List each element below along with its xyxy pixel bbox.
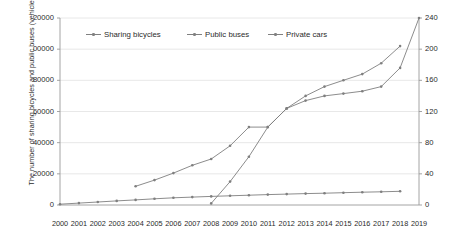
data-point xyxy=(380,191,383,194)
legend-marker-icon xyxy=(268,31,283,38)
legend-item-public-buses[interactable]: Public buses xyxy=(187,30,249,39)
data-point xyxy=(248,155,251,158)
data-point xyxy=(115,200,118,203)
series-line-private-cars xyxy=(211,18,419,203)
data-point xyxy=(153,198,156,201)
legend-marker-icon xyxy=(187,31,202,38)
data-point xyxy=(248,194,251,197)
data-point xyxy=(399,190,402,193)
data-point xyxy=(304,192,307,195)
data-point xyxy=(191,164,194,167)
data-point xyxy=(210,195,213,198)
data-point xyxy=(342,191,345,194)
data-point xyxy=(248,126,251,129)
data-point xyxy=(304,99,307,102)
legend-label: Private cars xyxy=(286,30,327,39)
data-point xyxy=(342,92,345,95)
data-point xyxy=(418,17,421,20)
series-line-public-buses xyxy=(136,46,401,186)
legend-item-private-cars[interactable]: Private cars xyxy=(268,30,327,39)
data-point xyxy=(78,202,81,205)
data-point xyxy=(399,67,402,70)
data-point xyxy=(229,195,232,198)
data-point xyxy=(285,107,288,110)
data-point xyxy=(229,145,232,148)
data-point xyxy=(304,95,307,98)
legend-label: Sharing bicycles xyxy=(104,30,161,39)
data-point xyxy=(59,203,62,206)
legend-label: Public buses xyxy=(205,30,249,39)
data-point xyxy=(361,73,364,76)
series-line-sharing-bicycles xyxy=(60,191,400,204)
data-point xyxy=(399,45,402,48)
data-point xyxy=(380,62,383,65)
data-point xyxy=(323,192,326,195)
data-point xyxy=(380,85,383,88)
data-point xyxy=(361,191,364,194)
data-point xyxy=(361,90,364,93)
data-point xyxy=(172,197,175,200)
data-point xyxy=(134,199,137,202)
data-point xyxy=(191,196,194,199)
data-point xyxy=(172,172,175,175)
data-point xyxy=(285,193,288,196)
legend-marker-icon xyxy=(86,31,101,38)
data-point xyxy=(210,202,213,205)
data-point xyxy=(229,180,232,183)
data-point xyxy=(267,126,270,129)
data-point xyxy=(210,158,213,161)
data-point xyxy=(97,201,100,204)
data-point xyxy=(342,79,345,82)
chart-container: The number of sharing bicycles and publi… xyxy=(0,0,470,245)
data-point xyxy=(134,185,137,188)
data-point xyxy=(267,193,270,196)
data-point xyxy=(323,95,326,98)
data-point xyxy=(323,85,326,88)
legend-item-sharing-bicycles[interactable]: Sharing bicycles xyxy=(86,30,161,39)
data-point xyxy=(153,179,156,182)
